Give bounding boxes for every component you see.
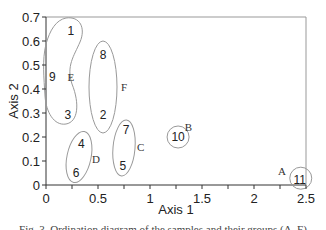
x-tick-label: 2.5 — [297, 191, 315, 206]
y-axis-title: Axis 2 — [6, 83, 21, 118]
group-label-d: D — [92, 153, 100, 165]
group-label-a: A — [278, 165, 286, 177]
y-tick-label: 0.4 — [22, 82, 40, 97]
x-tick-label: 2 — [250, 191, 257, 206]
x-tick-label: 0.5 — [89, 191, 107, 206]
group-label-b: B — [185, 121, 192, 133]
y-tick-label: 0.5 — [22, 58, 40, 73]
x-tick-label: 1.5 — [193, 191, 211, 206]
point-label-3: 3 — [64, 108, 71, 122]
y-tick-label: 0.1 — [22, 154, 40, 169]
figure-caption: Fig. 3. Ordination diagram of the sample… — [0, 222, 326, 230]
scatter-chart: 00.10.20.30.40.50.60.7 00.511.522.5 1234… — [0, 0, 326, 230]
point-label-10: 10 — [171, 130, 185, 144]
point-label-5: 5 — [120, 159, 127, 173]
y-axis-ticks: 00.10.20.30.40.50.60.7 — [22, 10, 46, 193]
point-label-1: 1 — [68, 24, 75, 38]
x-tick-label: 1 — [146, 191, 153, 206]
y-tick-label: 0.2 — [22, 130, 40, 145]
group-labels: ABCDEF — [68, 71, 287, 177]
point-label-8: 8 — [100, 48, 107, 62]
point-label-6: 6 — [73, 166, 80, 180]
group-label-e: E — [68, 71, 75, 83]
group-enclosures — [44, 18, 312, 189]
group-label-f: F — [121, 81, 127, 93]
point-label-7: 7 — [123, 123, 130, 137]
y-tick-label: 0.3 — [22, 106, 40, 121]
point-label-4: 4 — [78, 137, 85, 151]
x-tick-label: 0 — [42, 191, 49, 206]
point-label-2: 2 — [100, 108, 107, 122]
point-label-11: 11 — [294, 173, 307, 187]
plot-frame — [46, 17, 306, 185]
point-labels: 1234567891011 — [49, 24, 306, 187]
point-label-9: 9 — [49, 70, 56, 84]
x-axis-title: Axis 1 — [158, 202, 193, 217]
y-tick-label: 0 — [33, 178, 40, 193]
y-tick-label: 0.7 — [22, 10, 40, 25]
group-label-c: C — [137, 141, 144, 153]
y-tick-label: 0.6 — [22, 34, 40, 49]
